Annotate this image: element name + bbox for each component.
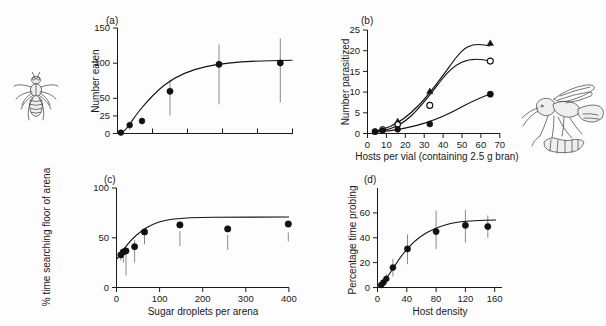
panel-d-xtick-0: 0 (375, 293, 380, 304)
panel-a-points (118, 60, 283, 136)
bottom-caption (0, 314, 606, 326)
panel-c-xtick-400: 400 (281, 293, 297, 304)
panel-c-ytick-50: 50 (98, 232, 109, 243)
panel-b-xtick-60: 60 (476, 139, 487, 150)
panel-b-ytick-20: 20 (349, 45, 360, 56)
panel-c-ytick-100: 100 (93, 182, 109, 193)
panel-b-xtick-30: 30 (419, 139, 430, 150)
panel-b-xtick-10: 10 (381, 139, 392, 150)
panel-d-xtick-160: 160 (487, 293, 503, 304)
panel-b-xticks: 0 10 20 30 40 50 60 70 (365, 134, 505, 151)
panel-c-xtick-300: 300 (238, 293, 254, 304)
panel-c-points (118, 221, 292, 258)
figure-root: (a) 0 25 50 100 150 (0, 0, 606, 326)
panel-b-ytick-15: 15 (349, 66, 360, 77)
panel-d-xticks: 0 40 80 120 160 (375, 288, 503, 305)
panel-d-yticks: 0 20 40 60 (359, 207, 377, 293)
panel-b-xtick-20: 20 (400, 139, 411, 150)
panel-c: (c) 0 50 100 0 100 200 300 (41, 167, 297, 317)
panel-b-ytick-5: 5 (355, 107, 360, 118)
panel-a-xticks (153, 129, 293, 134)
panel-c-ytick-0: 0 (104, 282, 109, 293)
panel-b-xtick-40: 40 (438, 139, 449, 150)
panel-d-xtick-80: 80 (431, 293, 442, 304)
panel-d-points (378, 222, 491, 288)
panel-a-ytick-150: 150 (94, 22, 110, 33)
panel-a-errorbars (121, 38, 280, 133)
panel-b-ylabel: Number parasitized (340, 39, 351, 126)
panel-d-ylabel: Percentage time probing (347, 186, 358, 295)
panel-a-ytick-0: 0 (105, 128, 110, 139)
panel-c-xtick-0: 0 (114, 293, 119, 304)
panel-b-curve-filled (375, 95, 490, 133)
panel-a: (a) 0 25 50 100 150 (90, 15, 293, 139)
panel-a-ytick-50: 50 (99, 92, 110, 103)
panel-d-errorbars (381, 210, 488, 288)
panel-c-xtick-100: 100 (152, 293, 168, 304)
panel-c-ylabel: % time searching floor of arena (41, 167, 52, 306)
panel-b-ytick-25: 25 (349, 24, 360, 35)
panel-c-xticks: 0 100 200 300 400 (114, 288, 297, 305)
panel-c-xtick-200: 200 (195, 293, 211, 304)
panel-b-xtick-50: 50 (457, 139, 468, 150)
panel-b-label: (b) (361, 15, 373, 26)
panel-b-points-filled-circles (372, 91, 493, 135)
panel-b-xlabel: Hosts per vial (containing 2.5 g bran) (355, 151, 518, 162)
wasp-illustration (522, 85, 603, 153)
panel-d-ytick-60: 60 (359, 207, 370, 218)
figure-canvas: (a) 0 25 50 100 150 (0, 0, 606, 326)
panel-a-ytick-25: 25 (99, 110, 110, 121)
panel-c-curve (117, 217, 289, 259)
panel-b-xtick-0: 0 (365, 139, 370, 150)
panel-b-curve-triangles (375, 44, 490, 131)
panel-a-ylabel: Number eaten (90, 49, 101, 112)
panel-d-label: (d) (364, 174, 376, 185)
panel-d-ytick-40: 40 (359, 232, 370, 243)
panel-d-ytick-20: 20 (359, 257, 370, 268)
panel-b-points-triangles (372, 40, 494, 134)
panel-d: (d) 0 20 40 60 0 40 80 (347, 174, 503, 317)
panel-c-errorbars (121, 231, 288, 275)
panel-c-yticks: 0 50 100 (93, 182, 116, 293)
panel-d-xtick-120: 120 (457, 293, 473, 304)
panel-b-xtick-70: 70 (495, 139, 506, 150)
panel-d-xtick-40: 40 (402, 293, 413, 304)
panel-b-ytick-0: 0 (355, 128, 360, 139)
panel-b: (b) 0 5 10 15 20 25 (340, 15, 519, 162)
panel-b-ytick-10: 10 (349, 86, 360, 97)
panel-b-yticks: 0 5 10 15 20 25 (349, 24, 367, 139)
panel-d-ytick-0: 0 (365, 282, 370, 293)
fly-illustration (14, 72, 58, 120)
